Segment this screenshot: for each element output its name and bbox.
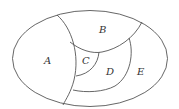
region-label-a: A (43, 55, 51, 66)
region-label-d: D (105, 66, 114, 77)
region-label-b: B (98, 24, 106, 35)
boundary-a (57, 15, 76, 105)
region-label-e: E (136, 66, 145, 77)
outer-ellipse (13, 11, 168, 107)
region-diagram: A B C D E (0, 0, 179, 109)
region-label-c: C (82, 55, 90, 66)
